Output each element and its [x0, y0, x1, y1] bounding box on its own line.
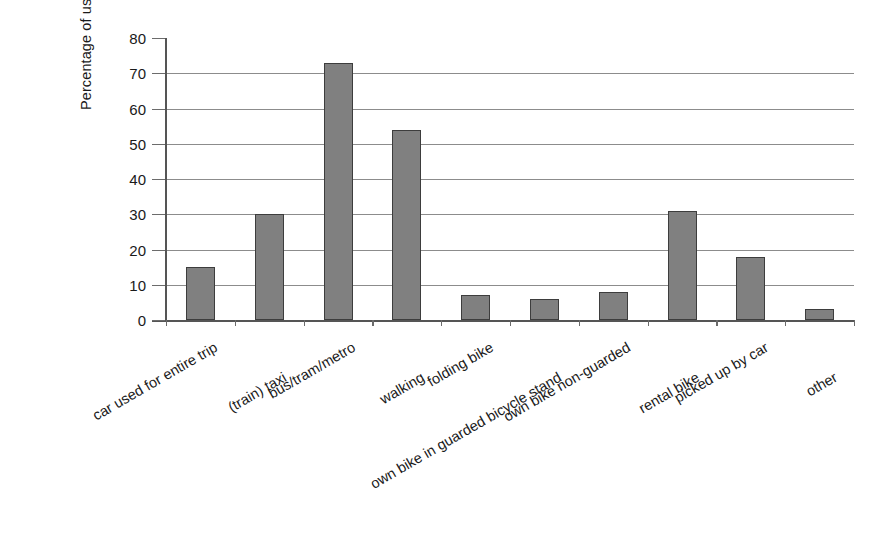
bars-group [166, 38, 854, 320]
y-tick-30 [152, 214, 165, 215]
y-tick-label-30: 30 [100, 206, 146, 223]
x-tick-6 [579, 320, 580, 326]
y-tick-60 [152, 109, 165, 110]
bar [392, 130, 421, 320]
x-tick-10 [854, 320, 855, 326]
y-tick-label-80: 80 [100, 30, 146, 47]
y-tick-70 [152, 73, 165, 74]
bar [461, 295, 490, 320]
bar [668, 211, 697, 320]
bar-chart: Percentage of use 80706050403020100 car … [0, 0, 895, 533]
bar [186, 267, 215, 320]
x-tick-1 [235, 320, 236, 326]
x-tick-4 [441, 320, 442, 326]
x-tick-8 [716, 320, 717, 326]
x-tick-2 [304, 320, 305, 326]
y-tick-label-70: 70 [100, 65, 146, 82]
y-tick-label-40: 40 [100, 171, 146, 188]
x-tick-5 [510, 320, 511, 326]
y-tick-label-20: 20 [100, 241, 146, 258]
y-tick-50 [152, 144, 165, 145]
y-tick-0 [152, 320, 165, 321]
bar [599, 292, 628, 320]
bar [530, 299, 559, 320]
y-tick-40 [152, 179, 165, 180]
x-tick-7 [648, 320, 649, 326]
x-tick-3 [372, 320, 373, 326]
bar [324, 63, 353, 320]
y-tick-label-0: 0 [100, 312, 146, 329]
bar [255, 214, 284, 320]
x-tick-9 [785, 320, 786, 326]
y-tick-80 [152, 38, 165, 39]
bar [736, 257, 765, 320]
y-tick-label-10: 10 [100, 276, 146, 293]
y-tick-10 [152, 285, 165, 286]
x-axis-line [152, 320, 854, 322]
y-tick-20 [152, 250, 165, 251]
y-axis-title: Percentage of use [78, 0, 94, 110]
bar [805, 309, 834, 320]
y-tick-label-50: 50 [100, 135, 146, 152]
x-tick-0 [166, 320, 167, 326]
y-tick-label-60: 60 [100, 100, 146, 117]
